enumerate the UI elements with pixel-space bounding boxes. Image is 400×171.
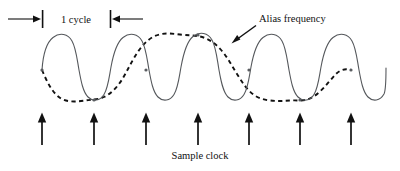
sample-point-markers xyxy=(40,33,352,101)
sample-point xyxy=(92,98,95,101)
alias-frequency-curve xyxy=(42,34,351,102)
aliasing-diagram-canvas: 1 cycle Alias frequency xyxy=(0,0,400,171)
alias-callout-group: Alias frequency xyxy=(232,13,327,44)
sample-point xyxy=(196,33,199,36)
sample-clock-arrows xyxy=(38,113,355,146)
arrow-up-icon xyxy=(38,113,46,146)
arrow-up-icon xyxy=(245,113,253,146)
arrow-up-icon xyxy=(296,113,304,146)
sample-point xyxy=(349,68,352,71)
arrow-right-icon xyxy=(33,16,41,23)
arrow-pointer-icon xyxy=(232,35,241,44)
sample-point xyxy=(298,98,301,101)
arrow-up-icon xyxy=(142,113,150,146)
arrow-up-icon xyxy=(194,113,202,146)
sample-point xyxy=(144,68,147,71)
cycle-label: 1 cycle xyxy=(61,14,91,25)
input-signal-curve xyxy=(42,33,386,100)
arrow-up-icon xyxy=(347,113,355,146)
sample-point xyxy=(40,68,43,71)
sample-clock-label: Sample clock xyxy=(172,150,230,161)
sample-point xyxy=(247,68,250,71)
arrow-up-icon xyxy=(90,113,98,146)
alias-label: Alias frequency xyxy=(259,13,327,24)
cycle-dimension-group: 1 cycle xyxy=(8,10,143,28)
aliasing-figure: 1 cycle Alias frequency xyxy=(0,0,400,171)
arrow-left-icon xyxy=(112,16,120,23)
